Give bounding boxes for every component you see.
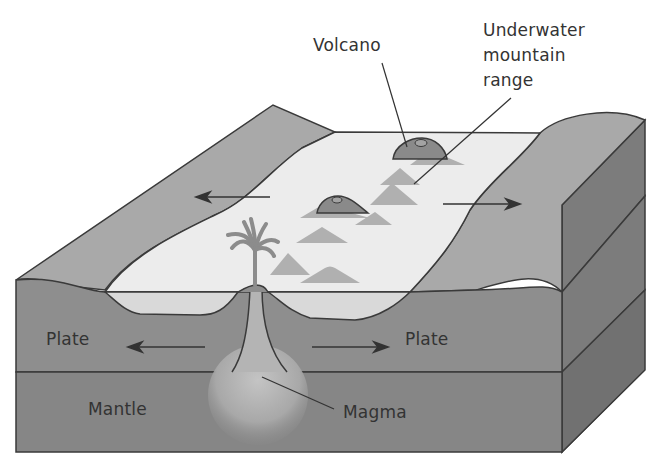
- magma-label: Magma: [343, 400, 407, 424]
- plate-boundary-diagram: Volcano Underwater mountain range Plate …: [0, 0, 664, 463]
- mountain-range-label: Underwater mountain range: [483, 18, 585, 93]
- plate-right-label: Plate: [405, 327, 449, 351]
- plate-left-label: Plate: [46, 327, 90, 351]
- volcano-lower-crater: [332, 197, 342, 203]
- volcano-upper-crater: [415, 140, 427, 147]
- mantle-label: Mantle: [88, 397, 147, 421]
- volcano-label: Volcano: [313, 33, 381, 57]
